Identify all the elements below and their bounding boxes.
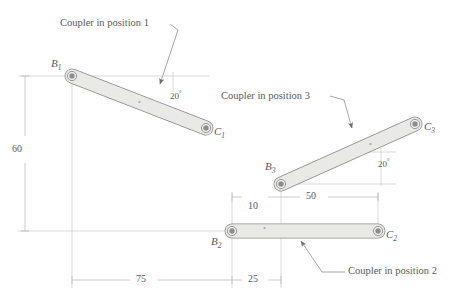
point-label-b3-sub: 3: [272, 166, 276, 175]
annotation-position-1: Coupler in position 1: [60, 18, 149, 29]
point-label-b2-sub: 2: [218, 241, 222, 250]
point-label-b2: B2: [211, 236, 221, 250]
dimension-label-60: 60: [12, 144, 22, 154]
leader-position-3: [330, 96, 352, 128]
coupler-bar-position-1[interactable]: [67, 71, 210, 132]
coupler-bar-position-3[interactable]: [276, 119, 419, 188]
pivot-b2[interactable]: [229, 228, 234, 233]
pivot-b3[interactable]: [278, 181, 283, 186]
annotation-position-2: Coupler in position 2: [348, 266, 437, 277]
annotation-position-3: Coupler in position 3: [221, 91, 310, 102]
leader-position-1: [160, 24, 178, 84]
point-label-c2-sub: 2: [393, 234, 397, 243]
angle-label-1-unit: °: [179, 89, 182, 96]
angle-label-3-unit: °: [387, 157, 390, 164]
coupler-bar-position-2[interactable]: [227, 226, 382, 235]
point-label-b3-letter: B: [265, 160, 272, 172]
leader-position-2: [301, 241, 345, 272]
point-label-c3: C3: [424, 121, 435, 135]
diagram-svg: [0, 0, 453, 301]
point-label-c1-sub: 1: [221, 131, 225, 140]
point-label-c3-sub: 3: [431, 126, 435, 135]
point-label-b1-sub: 1: [58, 63, 62, 72]
pivot-c1[interactable]: [203, 125, 208, 130]
angle-label-1-value: 20: [170, 91, 179, 101]
point-label-b1-letter: B: [51, 57, 58, 69]
point-label-b3: B3: [265, 161, 275, 175]
point-label-c1: C1: [214, 126, 225, 140]
dimension-lines: [21, 76, 378, 284]
angle-label-3-value: 20: [378, 159, 387, 169]
angle-label-1: 20°: [170, 90, 182, 101]
dimension-label-50: 50: [306, 191, 316, 201]
extension-lines: [18, 72, 396, 288]
pivot-b1[interactable]: [69, 73, 74, 78]
figure-canvas: Coupler in position 1 Coupler in positio…: [0, 0, 453, 301]
point-label-b1: B1: [51, 58, 61, 72]
pivot-c3[interactable]: [412, 121, 417, 126]
dimension-label-10: 10: [248, 201, 258, 211]
coupler3-body-fill: [281, 124, 415, 184]
point-label-c2: C2: [386, 229, 397, 243]
dimension-label-25: 25: [248, 274, 258, 284]
pivot-c2[interactable]: [375, 228, 380, 233]
point-label-b2-letter: B: [211, 235, 218, 247]
angle-label-3: 20°: [378, 158, 390, 169]
dimension-label-75: 75: [136, 274, 146, 284]
